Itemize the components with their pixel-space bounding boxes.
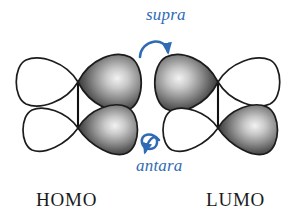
homo-bottom-left-lobe-light (23, 108, 78, 151)
lumo-bottom-right-lobe-dark (218, 105, 278, 155)
lumo-top-right-lobe-light (218, 58, 280, 106)
homo-bottom-right-lobe-dark (78, 105, 138, 155)
lumo-label: LUMO (206, 190, 265, 209)
lumo-bottom-orbital (163, 105, 278, 155)
homo-top-left-lobe-light (16, 58, 78, 106)
homo-bottom-orbital (23, 105, 138, 155)
orbital-diagram-canvas (0, 0, 298, 220)
lumo-bottom-left-lobe-light (163, 108, 218, 151)
homo-orbital-group (16, 55, 141, 155)
lumo-top-left-lobe-dark (155, 55, 218, 112)
supra-label: supra (146, 6, 186, 23)
antara-arrow-icon (142, 135, 159, 152)
lumo-orbital-group (155, 55, 280, 155)
orbital-diagram-figure: supra antara HOMO LUMO (0, 0, 298, 220)
homo-top-right-lobe-dark (78, 55, 141, 112)
supra-arrow-icon (140, 42, 168, 57)
antara-label: antara (136, 157, 183, 174)
homo-label: HOMO (36, 190, 97, 209)
